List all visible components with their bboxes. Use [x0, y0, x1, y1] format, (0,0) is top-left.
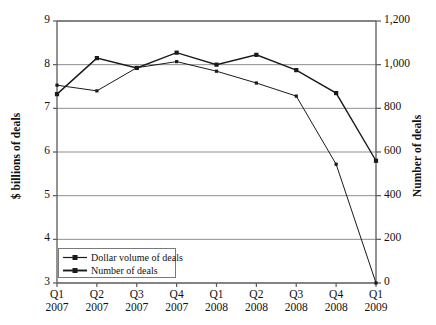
y-tick-label-right: 1,200	[384, 13, 424, 25]
x-tick-year: 2007	[75, 301, 119, 314]
y-tick-label-left: 4	[24, 231, 50, 243]
x-tick-label: Q12008	[195, 288, 239, 314]
legend-line-marker-icon	[62, 252, 88, 263]
y-tick-label-right: 200	[384, 231, 424, 243]
y-tick-label-left: 3	[24, 275, 50, 287]
x-tick-label: Q42007	[155, 288, 199, 314]
y-tick-label-left: 7	[24, 100, 50, 112]
legend-item-number-of-deals: Number of deals	[62, 264, 172, 277]
x-tick-year: 2007	[115, 301, 159, 314]
x-tick-label: Q22007	[75, 288, 119, 314]
x-tick-year: 2007	[35, 301, 79, 314]
x-tick-quarter: Q3	[274, 288, 318, 301]
y-tick-label-right: 0	[384, 275, 424, 287]
x-tick-year: 2008	[314, 301, 358, 314]
x-tick-year: 2008	[195, 301, 239, 314]
x-tick-quarter: Q4	[314, 288, 358, 301]
legend-label-number-of-deals: Number of deals	[88, 265, 158, 276]
legend-item-dollar-volume: Dollar volume of deals	[62, 251, 172, 264]
data-point	[95, 56, 99, 60]
x-tick-quarter: Q1	[195, 288, 239, 301]
data-point	[255, 81, 258, 84]
data-point	[294, 68, 298, 72]
x-tick-label: Q42008	[314, 288, 358, 314]
x-tick-year: 2009	[354, 301, 398, 314]
y-tick-label-right: 800	[384, 100, 424, 112]
x-tick-year: 2008	[234, 301, 278, 314]
data-point	[254, 53, 258, 57]
data-point	[135, 66, 139, 70]
chart-legend: Dollar volume of deals Number of deals	[58, 248, 176, 278]
x-tick-year: 2008	[274, 301, 318, 314]
data-point	[55, 92, 59, 96]
x-tick-quarter: Q2	[234, 288, 278, 301]
x-tick-quarter: Q1	[35, 288, 79, 301]
data-point	[374, 159, 378, 163]
x-tick-quarter: Q2	[75, 288, 119, 301]
data-point	[95, 89, 98, 92]
y-tick-label-right: 400	[384, 188, 424, 200]
data-point	[295, 95, 298, 98]
legend-label-dollar-volume: Dollar volume of deals	[88, 252, 183, 263]
x-tick-label: Q12009	[354, 288, 398, 314]
y-tick-label-left: 8	[24, 57, 50, 69]
y-tick-label-right: 1,000	[384, 57, 424, 69]
x-tick-quarter: Q4	[155, 288, 199, 301]
data-point	[334, 91, 338, 95]
data-point	[335, 163, 338, 166]
legend-line-marker-icon	[62, 265, 88, 276]
x-tick-year: 2007	[155, 301, 199, 314]
data-point	[374, 281, 377, 284]
data-point	[175, 60, 178, 63]
y-tick-label-right: 600	[384, 144, 424, 156]
data-point	[215, 70, 218, 73]
data-point	[214, 63, 218, 67]
x-tick-quarter: Q3	[115, 288, 159, 301]
x-tick-label: Q32007	[115, 288, 159, 314]
data-point	[55, 84, 58, 87]
x-tick-label: Q22008	[234, 288, 278, 314]
series-line-2	[57, 53, 376, 161]
y-tick-label-left: 9	[24, 13, 50, 25]
y-tick-label-left: 6	[24, 144, 50, 156]
data-point	[175, 51, 179, 55]
chart-figure: $ billions of deals Number of deals 3456…	[0, 0, 436, 325]
x-tick-label: Q12007	[35, 288, 79, 314]
x-tick-quarter: Q1	[354, 288, 398, 301]
x-tick-label: Q32008	[274, 288, 318, 314]
y-tick-label-left: 5	[24, 188, 50, 200]
